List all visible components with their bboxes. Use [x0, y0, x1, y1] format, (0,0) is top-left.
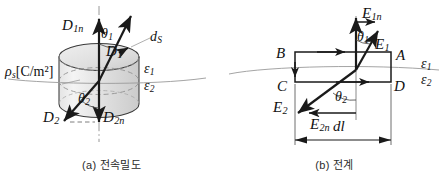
- ds-leader-line: [131, 38, 150, 47]
- label-theta2: θ2: [78, 92, 90, 108]
- caption-panel-b: (b) 전계: [223, 156, 446, 172]
- label-e1: E1: [375, 37, 390, 53]
- label-point-c: C: [277, 79, 287, 94]
- label-theta2-b: θ2: [335, 90, 347, 106]
- label-point-b: B: [276, 46, 285, 61]
- vector-e2: [298, 70, 356, 113]
- label-theta1-b: θ1: [357, 30, 369, 46]
- label-dl: dl: [333, 119, 345, 134]
- label-d2n: D2n: [103, 110, 124, 126]
- label-rho-s: ρs[C/m²]: [5, 65, 53, 81]
- label-epsilon2: ε2: [144, 79, 155, 95]
- label-e2: E2: [273, 100, 288, 116]
- label-e1n: E1n: [362, 6, 382, 22]
- figure-root: D1n θ1 D1 dS ρs[C/m²] ε1 ε2 θ2 D2 D2n (a…: [0, 0, 446, 177]
- label-d1n: D1n: [62, 18, 83, 34]
- label-epsilon1: ε1: [144, 62, 155, 78]
- label-e2n: E2n: [310, 117, 330, 133]
- label-epsilon1-b: ε1: [421, 57, 432, 73]
- caption-panel-a: (a) 전속밀도: [0, 156, 223, 172]
- dim-arrow-left: [295, 137, 307, 144]
- panel-electric-field: E1n θ1 E1 B A C D ε1 ε2 θ2 E2 E2n dl (b)…: [223, 0, 446, 177]
- label-epsilon2-b: ε2: [421, 73, 432, 89]
- dielectric-boundary-curve: [229, 67, 439, 74]
- label-point-a: A: [396, 48, 405, 63]
- label-d1: D1: [106, 44, 122, 60]
- label-ds: dS: [150, 30, 162, 46]
- label-point-d: D: [394, 79, 405, 94]
- dim-arrow-right: [379, 137, 391, 144]
- label-d2: D2: [43, 110, 59, 126]
- label-theta1: θ1: [101, 27, 113, 43]
- panel-flux-density: D1n θ1 D1 dS ρs[C/m²] ε1 ε2 θ2 D2 D2n (a…: [0, 0, 223, 177]
